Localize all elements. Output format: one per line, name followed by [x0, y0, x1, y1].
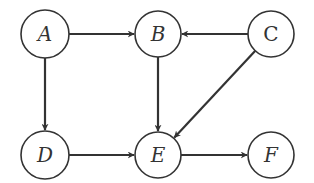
node-c: C: [248, 11, 294, 57]
node-b-label: B: [150, 22, 166, 46]
node-f-label: F: [263, 143, 279, 167]
node-a: A: [21, 10, 69, 58]
node-e-label: E: [150, 143, 166, 167]
node-e: E: [135, 132, 181, 178]
edge-c-to-e-arrow: [174, 51, 255, 138]
node-d: D: [21, 131, 69, 179]
node-f: F: [248, 132, 294, 178]
graph-diagram: A B C D E F: [0, 0, 314, 183]
node-c-label: C: [263, 22, 278, 46]
node-a-label: A: [36, 22, 52, 46]
node-d-label: D: [36, 143, 53, 167]
node-b: B: [135, 11, 181, 57]
